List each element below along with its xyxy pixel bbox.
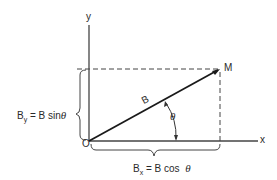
vector-decomposition-diagram xyxy=(0,0,277,180)
x-component-symbol: B xyxy=(133,163,140,174)
vector-arrowhead-icon xyxy=(212,69,220,75)
vector-b xyxy=(89,70,218,141)
origin-label: O xyxy=(82,139,90,149)
angle-arrowhead-bottom-icon xyxy=(174,135,178,141)
y-component-subscript: y xyxy=(24,116,28,123)
y-component-brace xyxy=(76,70,86,140)
point-m-label: M xyxy=(224,63,232,73)
x-component-label: Bx = B cos θ xyxy=(133,163,191,174)
x-component-subscript: x xyxy=(140,169,144,176)
y-component-rhs: = B sin xyxy=(30,110,61,121)
y-component-angle: θ xyxy=(61,109,66,121)
angle-theta-label: θ xyxy=(170,111,175,122)
x-component-angle: θ xyxy=(185,162,190,174)
y-component-label: By = B sinθ xyxy=(17,110,66,121)
y-component-symbol: B xyxy=(17,110,24,121)
x-axis-label: x xyxy=(260,135,265,145)
x-component-rhs: = B cos xyxy=(146,163,180,174)
y-axis-label: y xyxy=(86,12,91,22)
x-component-brace xyxy=(91,144,220,156)
